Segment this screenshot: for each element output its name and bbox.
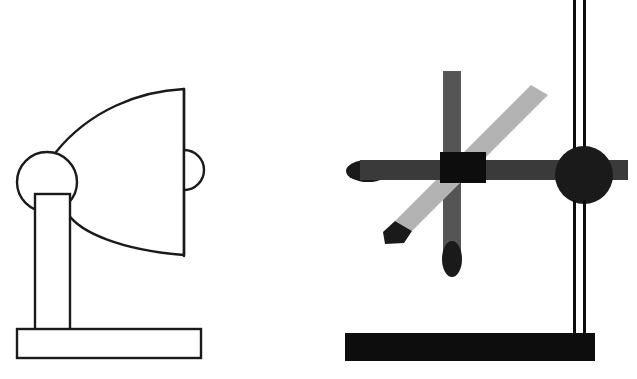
pivot-hub-circle (555, 146, 613, 204)
base-plate (17, 329, 201, 358)
apparatus-illustration (0, 0, 637, 379)
support-post (35, 194, 70, 330)
vertical-pole-left-rail-lower (573, 200, 576, 335)
figure-canvas (0, 0, 637, 379)
vertical-pole-right-rail-lower (583, 200, 586, 335)
vertical-bar-tip-ellipse (442, 241, 462, 277)
base-plate-black (345, 333, 595, 361)
center-clamp-block (440, 152, 486, 183)
